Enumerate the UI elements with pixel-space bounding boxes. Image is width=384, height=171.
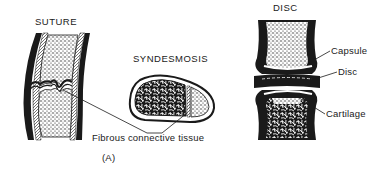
suture-title: SUTURE bbox=[35, 17, 77, 27]
fibrous-connective-tissue-label: Fibrous connective tissue bbox=[92, 133, 204, 143]
disc-illustration bbox=[254, 20, 320, 140]
disc-title: DISC bbox=[273, 3, 298, 13]
syndesmosis-title: SYNDESMOSIS bbox=[133, 54, 208, 64]
disc-label: Disc bbox=[338, 67, 357, 77]
syndesmosis-illustration bbox=[130, 75, 214, 122]
capsule-label: Capsule bbox=[331, 46, 367, 56]
panel-label: (A) bbox=[102, 153, 115, 163]
suture-illustration bbox=[24, 33, 91, 140]
cartilage-label: Cartilage bbox=[326, 109, 366, 119]
